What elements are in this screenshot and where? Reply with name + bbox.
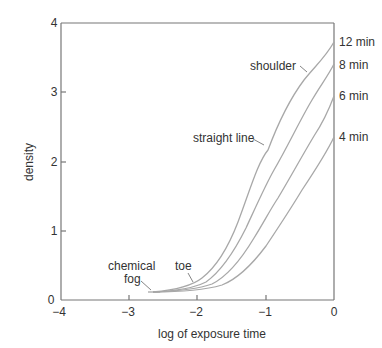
- curve-8-min: [153, 64, 334, 292]
- series-label-4-min: 4 min: [339, 130, 368, 144]
- x-tick-label: 0: [331, 305, 338, 319]
- annotation-chemical: chemical: [108, 259, 155, 273]
- x-axis-title: log of exposure time: [158, 327, 266, 341]
- x-tick-label: −3: [121, 305, 135, 319]
- series-label-6-min: 6 min: [339, 89, 368, 103]
- curves: [153, 42, 334, 292]
- toe-leader: [188, 273, 193, 282]
- y-tick-labels: 0 1 2 3 4: [48, 16, 58, 307]
- y-axis-title: density: [22, 143, 36, 181]
- x-tick-label: −2: [189, 305, 203, 319]
- x-tick-label: −1: [258, 305, 272, 319]
- y-tick-label: 1: [51, 224, 58, 238]
- y-tick-label: 3: [51, 85, 58, 99]
- x-ticks: [129, 295, 266, 300]
- series-labels: 12 min 8 min 6 min 4 min: [339, 35, 375, 144]
- series-label-8-min: 8 min: [339, 58, 368, 72]
- annotation-fog: fog: [124, 272, 141, 286]
- y-tick-label: 2: [51, 155, 58, 169]
- annotations: shoulder straight line chemical fog toe: [108, 59, 307, 290]
- series-label-12-min: 12 min: [339, 35, 375, 49]
- annotation-toe: toe: [175, 259, 192, 273]
- y-ticks: [61, 92, 66, 231]
- y-tick-label: 4: [51, 16, 58, 30]
- annotation-shoulder: shoulder: [250, 59, 296, 73]
- x-tick-label: −4: [52, 305, 66, 319]
- annotation-straight-line: straight line: [193, 131, 255, 145]
- shoulder-leader: [300, 66, 307, 72]
- x-tick-labels: −4 −3 −2 −1 0: [52, 305, 338, 319]
- fog-leader: [141, 281, 151, 290]
- straight-line-leader: [253, 139, 264, 145]
- characteristic-curve-chart: 0 1 2 3 4 −4 −3 −2 −1 0 log of exposure …: [0, 0, 382, 348]
